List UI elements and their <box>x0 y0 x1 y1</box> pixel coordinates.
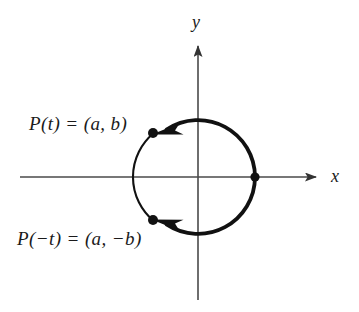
arc-counterclockwise <box>167 120 256 177</box>
x-axis-label: x <box>331 167 339 185</box>
label-p-neg-t: P(−t) = (a, −b) <box>17 229 142 248</box>
point-p-neg-t-dot <box>148 215 158 225</box>
diagram-canvas <box>0 0 359 312</box>
point-p-t-dot <box>148 128 158 138</box>
point-start-dot <box>250 172 259 181</box>
arc-clockwise <box>167 177 256 234</box>
y-axis-label: y <box>192 13 200 31</box>
label-p-t: P(t) = (a, b) <box>29 114 127 133</box>
unit-circle-figure: P(t) = (a, b) P(−t) = (a, −b) y x <box>0 0 359 312</box>
